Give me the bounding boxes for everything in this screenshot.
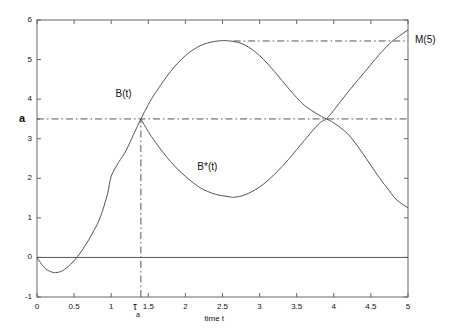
series-curve-bt — [141, 30, 408, 198]
x-tick-label: 2.5 — [213, 302, 233, 311]
y-tick-label: 4 — [8, 94, 32, 103]
y-axis-ticks — [37, 20, 408, 297]
reference-lines — [37, 41, 408, 297]
x-tick-label: 2 — [175, 302, 195, 311]
y-tick-label: 3 — [8, 134, 32, 143]
plot-canvas — [0, 0, 454, 336]
series-curve-bt — [37, 41, 408, 273]
x-tick-label: 3.5 — [287, 302, 307, 311]
y-tick-label: 0 — [8, 252, 32, 261]
x-tick-label: 3 — [250, 302, 270, 311]
y-tick-label: 5 — [8, 55, 32, 64]
x-tick-label: 4.5 — [361, 302, 381, 311]
data-series — [37, 30, 408, 273]
x-tick-label: 4 — [324, 302, 344, 311]
x-tick-label: 5 — [398, 302, 418, 311]
curve-label-b: B(t) — [116, 88, 132, 99]
curve-label-bstar: B*(t) — [197, 161, 217, 172]
x-tick-label: 0 — [27, 302, 47, 311]
plot-frame — [37, 20, 408, 297]
annotation-label-m5: M(5) — [415, 34, 436, 45]
y-tick-label: 1 — [8, 213, 32, 222]
x-tick-label: 1 — [101, 302, 121, 311]
y-tick-label: 2 — [8, 173, 32, 182]
x-axis-tau-subscript: a — [136, 311, 140, 318]
x-tick-label: 0.5 — [64, 302, 84, 311]
y-axis-level-label-a: a — [19, 112, 25, 124]
y-tick-label: -1 — [8, 292, 32, 301]
y-tick-label: 6 — [8, 15, 32, 24]
chart-figure: -10123456 00.511.522.533.544.55 a time t… — [0, 0, 454, 336]
x-tick-label: 1.5 — [138, 302, 158, 311]
x-axis-ticks — [37, 20, 408, 297]
x-axis-title: time t — [205, 314, 225, 323]
